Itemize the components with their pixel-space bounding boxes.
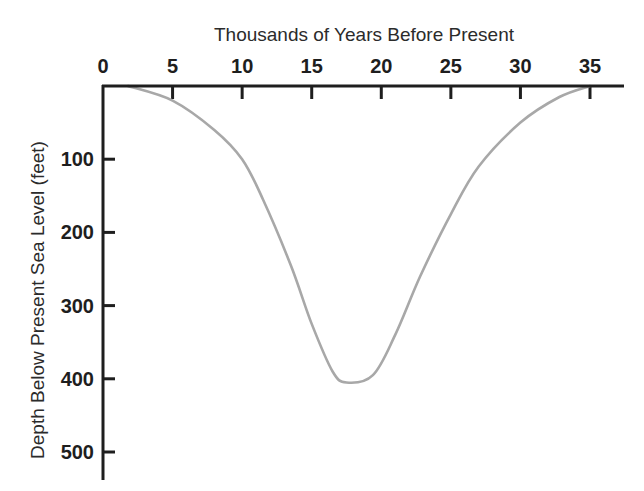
y-tick-label: 300: [61, 295, 94, 317]
x-tick-label: 20: [370, 55, 392, 77]
x-tick-label: 30: [509, 55, 531, 77]
x-tick-label: 10: [231, 55, 253, 77]
x-axis-title: Thousands of Years Before Present: [214, 24, 515, 45]
y-tick-label: 200: [61, 221, 94, 243]
sea-level-curve: [128, 86, 590, 383]
x-tick-label: 25: [440, 55, 462, 77]
y-axis-title: Depth Below Present Sea Level (feet): [27, 141, 48, 459]
y-tick-label: 400: [61, 368, 94, 390]
x-tick-label: 35: [579, 55, 601, 77]
y-tick-label: 500: [61, 441, 94, 463]
chart-canvas: Thousands of Years Before Present 051015…: [0, 0, 644, 491]
y-axis-ticks: 100200300400500: [61, 148, 115, 463]
x-tick-label: 15: [301, 55, 323, 77]
x-axis-ticks: 05101520253035: [97, 55, 601, 99]
x-tick-label: 0: [97, 55, 108, 77]
y-tick-label: 100: [61, 148, 94, 170]
chart: Thousands of Years Before Present 051015…: [0, 0, 644, 491]
x-tick-label: 5: [167, 55, 178, 77]
